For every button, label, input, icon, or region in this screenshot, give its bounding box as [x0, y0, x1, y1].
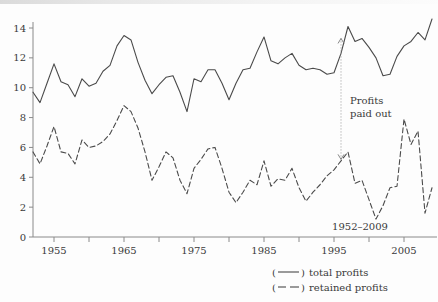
y-axis-tick-label: 8: [20, 112, 26, 123]
legend-label-total-profits: total profits: [309, 267, 368, 278]
profits-line-chart: 02468101214195519651975198519952005Profi…: [0, 0, 438, 302]
chart-figure: 02468101214195519651975198519952005Profi…: [0, 0, 438, 302]
x-axis-tick-label: 1995: [321, 245, 346, 256]
period-label: 1952–2009: [332, 221, 388, 232]
connector-arrowhead-top: [338, 38, 344, 43]
y-axis-tick-label: 2: [20, 202, 26, 213]
legend-close-paren-1: ): [301, 282, 305, 293]
y-axis-tick-label: 14: [13, 23, 26, 34]
annotation-text-line2: paid out: [350, 108, 392, 119]
connector-arrowhead-bottom: [338, 154, 344, 159]
x-axis-tick-label: 1965: [111, 245, 136, 256]
legend-label-retained-profits: retained profits: [309, 282, 388, 293]
y-axis-tick-label: 10: [13, 82, 26, 93]
series-line-retained-profits: [33, 106, 432, 219]
x-axis-tick-label: 1975: [181, 245, 206, 256]
x-axis-tick-label: 1955: [41, 245, 66, 256]
y-axis-tick-label: 4: [20, 172, 26, 183]
legend-open-paren-0: (: [272, 267, 276, 278]
annotation-text-line1: Profits: [350, 95, 383, 106]
x-axis-tick-label: 1985: [251, 245, 276, 256]
x-axis-tick-label: 2005: [391, 245, 416, 256]
legend-open-paren-1: (: [272, 282, 276, 293]
y-axis-tick-label: 0: [20, 232, 26, 243]
y-axis-tick-label: 6: [20, 142, 26, 153]
legend-close-paren-0: ): [301, 267, 305, 278]
y-axis-tick-label: 12: [13, 52, 26, 63]
